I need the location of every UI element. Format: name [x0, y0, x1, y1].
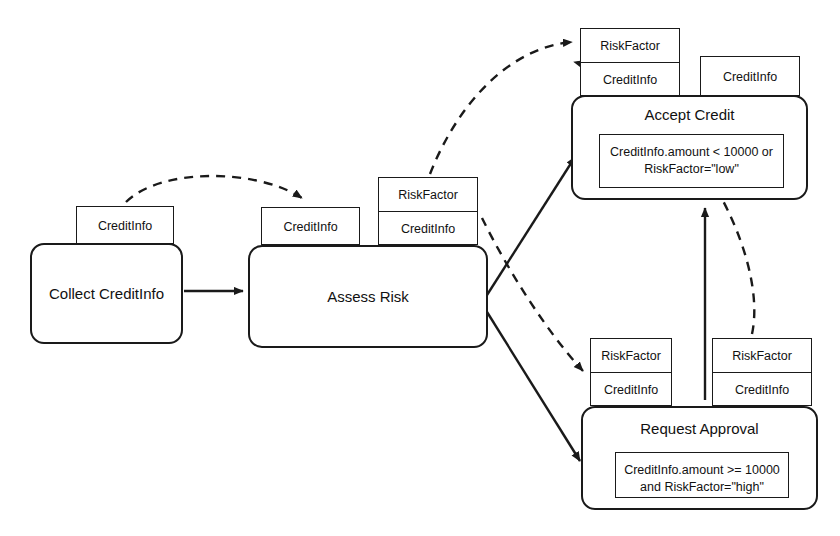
guard-line-1: CreditInfo.amount < 10000 or — [600, 144, 783, 161]
activity-node-accept-credit[interactable]: Accept Credit CreditInfo.amount < 10000 … — [571, 95, 808, 200]
pin-row-label: RiskFactor — [379, 178, 477, 212]
edge-assess-to-request — [487, 312, 580, 461]
diagram-canvas: CreditInfo CreditInfo RiskFactorCreditIn… — [0, 0, 840, 536]
flow-assess-pin-to-request-pin — [482, 218, 583, 371]
pin-accept-extra: CreditInfo — [700, 56, 800, 96]
pin-row-label: CreditInfo — [591, 373, 671, 407]
pin-collect-output: CreditInfo — [76, 206, 174, 244]
pin-row-label: RiskFactor — [713, 339, 811, 373]
pin-assess-input: CreditInfo — [261, 207, 360, 245]
activity-node-assess-risk[interactable]: Assess Risk — [248, 245, 488, 348]
pin-row-label: CreditInfo — [77, 207, 173, 245]
pin-row-label: CreditInfo — [701, 57, 799, 97]
activity-node-label: Assess Risk — [250, 288, 486, 305]
pin-row-label: CreditInfo — [379, 212, 477, 246]
pin-accept-input: RiskFactorCreditInfo — [580, 28, 680, 96]
flow-collect-pin-to-assess-pin — [126, 176, 302, 202]
guard-line-2: RiskFactor="low" — [600, 161, 783, 178]
activity-node-label: Request Approval — [583, 420, 816, 437]
pin-row-label: CreditInfo — [581, 63, 679, 97]
activity-node-collect-credit-info[interactable]: Collect CreditInfo — [30, 243, 183, 344]
pin-request-input: RiskFactorCreditInfo — [590, 338, 672, 406]
pin-row-label: RiskFactor — [591, 339, 671, 373]
flow-assess-pin-to-accept-pin — [430, 42, 572, 174]
guard-condition-request-approval: CreditInfo.amount >= 10000 and RiskFacto… — [615, 452, 789, 498]
activity-node-label: Collect CreditInfo — [32, 285, 181, 302]
pin-row-label: CreditInfo — [713, 373, 811, 407]
activity-node-label: Accept Credit — [573, 106, 806, 123]
edge-assess-to-accept — [487, 157, 575, 295]
pin-row-label: RiskFactor — [581, 29, 679, 63]
guard-condition-accept-credit: CreditInfo.amount < 10000 or RiskFactor=… — [599, 134, 784, 188]
pin-request-output: RiskFactorCreditInfo — [712, 338, 812, 406]
pin-row-label: CreditInfo — [262, 208, 359, 246]
pin-assess-output: RiskFactorCreditInfo — [378, 177, 478, 245]
guard-line-2: and RiskFactor="high" — [616, 479, 788, 496]
activity-node-request-approval[interactable]: Request Approval CreditInfo.amount >= 10… — [581, 406, 818, 510]
guard-line-1: CreditInfo.amount >= 10000 — [616, 462, 788, 479]
